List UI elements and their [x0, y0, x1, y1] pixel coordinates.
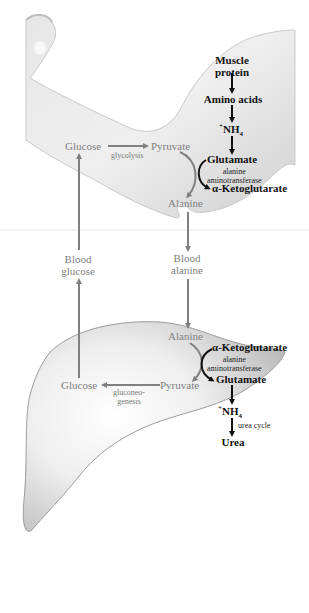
- liver-alpha-ketoglutarate-label: α-Ketoglutarate: [212, 342, 287, 353]
- ammonium-base: NH: [222, 405, 239, 417]
- enzyme-line1: alanine: [207, 167, 262, 176]
- diagram-artwork: [0, 0, 309, 613]
- glycolysis-label: glycolysis: [111, 152, 143, 161]
- liver-glutamate-label: Glutamate: [216, 374, 266, 385]
- muscle-alpha-ketoglutarate-label: α-Ketoglutarate: [212, 183, 287, 194]
- muscle-protein-line2: protein: [215, 67, 249, 79]
- blood-glucose-label: Blood glucose: [61, 253, 95, 277]
- muscle-protein-label: Muscle protein: [215, 55, 249, 78]
- muscle-ammonium-label: +NH4: [219, 123, 243, 138]
- liver-alanine-label: Alanine: [168, 331, 203, 342]
- blood-glucose-line2: glucose: [61, 265, 95, 277]
- blood-alanine-label: Blood alanine: [171, 252, 203, 276]
- glucose-alanine-cycle-diagram: Muscle protein Amino acids +NH4 Glutamat…: [0, 0, 309, 613]
- muscle-protein-line1: Muscle: [215, 55, 249, 67]
- enzyme-line1: alanine: [207, 355, 262, 364]
- liver-glucose-label: Glucose: [61, 380, 97, 391]
- ammonium-base: NH: [223, 123, 240, 135]
- gluconeogenesis-line2: genesis: [113, 398, 145, 407]
- blood-alanine-line1: Blood: [171, 252, 203, 264]
- urea-cycle-label: urea cycle: [238, 421, 271, 430]
- ammonium-subscript: 4: [239, 412, 243, 420]
- liver-pyruvate-label: Pyruvate: [160, 380, 199, 391]
- muscle-alanine-label: Alanine: [168, 198, 203, 209]
- muscle-glutamate-label: Glutamate: [207, 154, 257, 165]
- arm-illustration: [0, 15, 309, 230]
- liver-ammonium-label: +NH4: [218, 405, 242, 420]
- muscle-glucose-label: Glucose: [65, 141, 101, 152]
- muscle-pyruvate-label: Pyruvate: [151, 141, 190, 152]
- ammonium-subscript: 4: [240, 130, 244, 138]
- enzyme-line2: aminotransferase: [207, 364, 262, 373]
- blood-glucose-line1: Blood: [61, 253, 95, 265]
- gluconeogenesis-label: gluconeo- genesis: [113, 389, 145, 407]
- urea-label: Urea: [221, 437, 244, 448]
- blood-alanine-line2: alanine: [171, 264, 203, 276]
- amino-acids-label: Amino acids: [204, 94, 262, 105]
- liver-enzyme-label: alanine aminotransferase: [207, 355, 262, 373]
